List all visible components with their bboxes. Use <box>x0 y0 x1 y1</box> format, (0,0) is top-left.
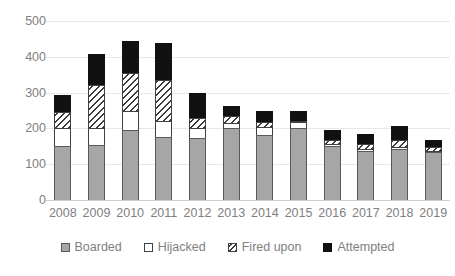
bar-segment-2011-attempted[interactable] <box>155 43 172 81</box>
bar-segment-2019-attempted[interactable] <box>425 140 442 147</box>
bar-segment-2009-hijacked[interactable] <box>88 128 105 146</box>
y-tick-label-200: 200 <box>12 121 46 135</box>
bar-segment-2012-attempted[interactable] <box>189 93 206 118</box>
bar-segment-2011-hijacked[interactable] <box>155 121 172 137</box>
stacked-bar-2009[interactable] <box>88 54 105 200</box>
bar-slot-2019 <box>416 21 450 200</box>
bar-segment-2012-hijacked[interactable] <box>189 128 206 138</box>
x-tick-label-2008: 2008 <box>46 203 80 223</box>
stacked-bar-2012[interactable] <box>189 93 206 200</box>
stacked-bar-2014[interactable] <box>256 111 273 200</box>
stacked-bar-2015[interactable] <box>290 111 307 200</box>
bar-segment-2009-boarded[interactable] <box>88 145 105 200</box>
x-tick-label-2017: 2017 <box>349 203 383 223</box>
bar-segment-2008-fired-upon[interactable] <box>54 112 71 128</box>
bar-segment-2008-attempted[interactable] <box>54 95 71 112</box>
bar-segment-2012-boarded[interactable] <box>189 138 206 200</box>
bar-segment-2008-hijacked[interactable] <box>54 128 71 146</box>
bar-segment-2010-boarded[interactable] <box>122 130 139 200</box>
plot-area <box>46 21 450 200</box>
x-tick-label-2013: 2013 <box>214 203 248 223</box>
y-tick-label-100: 100 <box>12 157 46 171</box>
x-tick-label-2012: 2012 <box>181 203 215 223</box>
bar-segment-2010-fired-upon[interactable] <box>122 73 139 111</box>
legend-item-hijacked[interactable]: Hijacked <box>144 240 206 254</box>
bar-slot-2015 <box>282 21 316 200</box>
bar-group <box>46 21 450 200</box>
bar-segment-2014-attempted[interactable] <box>256 111 273 122</box>
legend-label: Fired upon <box>242 240 302 254</box>
legend-label: Hijacked <box>158 240 206 254</box>
bar-segment-2012-fired-upon[interactable] <box>189 118 206 128</box>
bar-segment-2014-boarded[interactable] <box>256 135 273 201</box>
bar-slot-2017 <box>349 21 383 200</box>
bar-segment-2009-fired-upon[interactable] <box>88 85 105 128</box>
bar-segment-2015-boarded[interactable] <box>290 128 307 200</box>
bar-slot-2016 <box>315 21 349 200</box>
stacked-bar-2018[interactable] <box>391 126 408 200</box>
bar-slot-2008 <box>46 21 80 200</box>
bar-segment-2016-attempted[interactable] <box>324 130 341 140</box>
bar-segment-2017-attempted[interactable] <box>357 134 374 144</box>
bar-slot-2009 <box>80 21 114 200</box>
x-tick-label-2010: 2010 <box>113 203 147 223</box>
bar-segment-2010-attempted[interactable] <box>122 41 139 73</box>
stacked-bar-2016[interactable] <box>324 130 341 200</box>
x-tick-label-2009: 2009 <box>80 203 114 223</box>
bar-segment-2019-boarded[interactable] <box>425 152 442 200</box>
stacked-bar-2013[interactable] <box>223 106 240 201</box>
bar-segment-2016-boarded[interactable] <box>324 146 341 200</box>
bar-segment-2017-boarded[interactable] <box>357 151 374 200</box>
x-tick-label-2019: 2019 <box>416 203 450 223</box>
legend-item-attempted[interactable]: Attempted <box>323 240 394 254</box>
stacked-bar-2019[interactable] <box>425 140 442 201</box>
x-tick-label-2011: 2011 <box>147 203 181 223</box>
hatched-square-icon <box>228 243 237 252</box>
x-tick-label-2015: 2015 <box>282 203 316 223</box>
bar-slot-2012 <box>181 21 215 200</box>
stacked-bar-2008[interactable] <box>54 95 71 200</box>
stacked-bar-chart: 2008200920102011201220132014201520162017… <box>0 0 455 276</box>
stacked-bar-2010[interactable] <box>122 41 139 200</box>
x-tick-label-2018: 2018 <box>383 203 417 223</box>
x-axis-tick-labels: 2008200920102011201220132014201520162017… <box>46 203 450 223</box>
bar-segment-2018-attempted[interactable] <box>391 126 408 140</box>
white-square-icon <box>144 243 153 252</box>
bar-segment-2010-hijacked[interactable] <box>122 111 139 130</box>
bar-slot-2018 <box>383 21 417 200</box>
y-tick-label-500: 500 <box>12 14 46 28</box>
y-tick-label-300: 300 <box>12 86 46 100</box>
y-tick-label-400: 400 <box>12 50 46 64</box>
legend-item-fired-upon[interactable]: Fired upon <box>228 240 302 254</box>
stacked-bar-2017[interactable] <box>357 134 374 200</box>
gridline-0 <box>46 200 450 201</box>
x-tick-label-2016: 2016 <box>315 203 349 223</box>
bar-slot-2013 <box>214 21 248 200</box>
x-tick-label-2014: 2014 <box>248 203 282 223</box>
bar-slot-2011 <box>147 21 181 200</box>
bar-segment-2014-hijacked[interactable] <box>256 127 273 135</box>
bar-segment-2008-boarded[interactable] <box>54 146 71 200</box>
bar-segment-2013-fired-upon[interactable] <box>223 116 240 124</box>
bar-segment-2011-boarded[interactable] <box>155 137 172 200</box>
legend-label: Attempted <box>337 240 394 254</box>
y-tick-label-0: 0 <box>12 193 46 207</box>
bar-segment-2009-attempted[interactable] <box>88 54 105 84</box>
gray-square-icon <box>61 243 70 252</box>
bar-segment-2015-attempted[interactable] <box>290 111 307 121</box>
bar-segment-2013-boarded[interactable] <box>223 128 240 200</box>
stacked-bar-2011[interactable] <box>155 43 172 200</box>
bar-slot-2010 <box>113 21 147 200</box>
chart-legend: BoardedHijackedFired uponAttempted <box>0 240 455 254</box>
bar-slot-2014 <box>248 21 282 200</box>
bar-segment-2013-attempted[interactable] <box>223 106 240 116</box>
black-square-icon <box>323 243 332 252</box>
legend-label: Boarded <box>75 240 122 254</box>
bar-segment-2018-boarded[interactable] <box>391 149 408 200</box>
legend-item-boarded[interactable]: Boarded <box>61 240 122 254</box>
bar-segment-2011-fired-upon[interactable] <box>155 80 172 120</box>
